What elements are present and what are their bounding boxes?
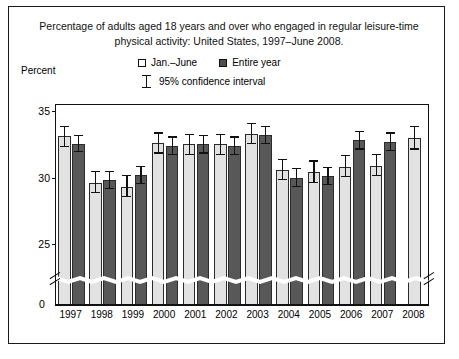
error-bar-2001-jan-june [185,134,194,155]
bar-group-2000 [150,105,181,304]
bar-2004-jan-june [276,170,289,305]
bar-group-2004 [274,105,305,304]
figure-frame: Percentage of adults aged 18 years and o… [8,6,445,344]
bar-1998-jan-june [89,183,102,305]
error-bar-2000-jan-june [154,132,163,153]
x-tick-2008: 2008 [402,309,424,320]
x-tick-2006: 2006 [340,309,362,320]
bar-1999-jan-june [121,187,134,305]
error-bar-2007-entire-year [386,132,395,151]
error-bar-1998-entire-year [105,171,114,190]
legend-swatch-dark-icon [219,59,227,67]
error-bar-2000-entire-year [168,136,177,155]
error-bar-2005-entire-year [323,167,332,186]
error-bar-2001-entire-year [199,135,208,154]
bar-1997-entire-year [72,144,85,305]
bar-2001-entire-year [197,144,210,305]
bar-group-1999 [118,105,149,304]
bar-2000-entire-year [166,146,179,305]
chart-title-line-2: physical activity: United States, 1997–J… [29,34,429,49]
bar-2007-entire-year [384,142,397,305]
error-bar-2003-jan-june [247,123,256,144]
bar-1999-entire-year [135,175,148,305]
x-tick-2003: 2003 [246,309,268,320]
bar-group-1998 [87,105,118,304]
y-tick-25: 25 [38,238,50,250]
error-bar-1999-jan-june [122,175,131,198]
bar-2001-jan-june [183,144,196,305]
bar-2000-jan-june [152,143,165,305]
x-tick-2001: 2001 [184,309,206,320]
bar-1998-entire-year [103,180,116,305]
y-axis-break-icon-left [49,272,61,286]
legend-label-entire-year: Entire year [232,57,280,68]
y-tick-zero: 0 [39,298,45,310]
legend-swatch-light-icon [138,59,146,67]
x-tick-2004: 2004 [278,309,300,320]
bar-2002-jan-june [214,144,227,305]
error-bar-1997-entire-year [74,135,83,152]
legend-label-jan-june: Jan.–June [151,57,197,68]
x-tick-1997: 1997 [59,309,81,320]
bar-group-2006 [337,105,368,304]
error-bar-2006-jan-june [341,155,350,178]
error-bar-1999-entire-year [136,166,145,185]
bar-2004-entire-year [290,178,303,306]
error-bar-1997-jan-june [60,126,69,147]
x-tick-2005: 2005 [309,309,331,320]
chart-title-line-1: Percentage of adults aged 18 years and o… [29,19,429,34]
error-bar-2008-jan-june [410,126,419,150]
x-axis-labels: 1997199819992000200120022003200420052006… [55,309,429,325]
x-tick-1998: 1998 [91,309,113,320]
y-axis-break-icon-right [423,272,435,286]
bar-2006-entire-year [353,140,366,305]
error-bar-2003-entire-year [261,126,270,145]
x-tick-1999: 1999 [122,309,144,320]
error-bar-1998-jan-june [91,171,100,194]
legend-item-jan-june: Jan.–June [138,57,197,68]
error-bar-2006-entire-year [355,131,364,150]
bar-2006-jan-june [339,167,352,305]
y-tick-30: 30 [38,172,50,184]
x-tick-2000: 2000 [153,309,175,320]
error-bar-icon [142,75,151,88]
error-bar-2004-entire-year [292,168,301,187]
bar-group-2001 [181,105,212,304]
error-bar-2004-jan-june [278,159,287,180]
x-axis-line [55,304,429,306]
bar-2007-jan-june [370,166,383,305]
error-bar-2002-jan-june [216,134,225,155]
bar-group-2005 [305,105,336,304]
bar-2005-entire-year [322,176,335,305]
bar-2003-entire-year [259,135,272,305]
error-bar-2007-jan-june [372,154,381,177]
bar-group-2003 [243,105,274,304]
bar-2008-jan-june [408,138,421,305]
y-tick-35: 35 [38,105,50,117]
bar-group-2007 [368,105,399,304]
error-bar-2005-jan-june [309,160,318,183]
x-tick-2002: 2002 [215,309,237,320]
chart-title: Percentage of adults aged 18 years and o… [29,19,429,49]
bar-2005-jan-june [308,172,321,305]
bar-2002-entire-year [228,146,241,305]
x-tick-2007: 2007 [371,309,393,320]
legend-label-ci: 95% confidence interval [159,76,265,87]
plot-inner: 253035 [56,105,428,304]
plot-area: 253035 [55,104,429,304]
bar-2003-jan-june [245,134,258,305]
bar-group-2002 [212,105,243,304]
y-axis-label: Percent [21,65,55,76]
error-bar-2002-entire-year [230,136,239,155]
legend-item-entire-year: Entire year [219,57,280,68]
chart-legend: Jan.–June Entire year 95% confidence int… [124,57,354,95]
